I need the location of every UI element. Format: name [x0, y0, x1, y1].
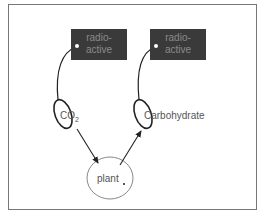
co2-text: CO: [60, 110, 75, 121]
tag-hole-icon: [154, 44, 158, 48]
tag-hole-icon: [75, 44, 79, 48]
co2-subscript: 2: [75, 116, 79, 123]
tag-text-line1: radio-: [71, 32, 127, 44]
tag-text-line2: active: [71, 44, 127, 56]
arrow-co2-to-plant: [77, 129, 98, 163]
plant-dot: [123, 183, 125, 185]
co2-label: CO2: [60, 110, 79, 123]
carbohydrate-label: Carbohydrate: [144, 110, 205, 121]
radioactive-tag-left: radio- active: [71, 29, 127, 60]
plant-label: plant: [97, 173, 119, 184]
tag-text-line2: active: [150, 44, 206, 56]
radioactive-tag-right: radio- active: [150, 29, 206, 60]
tag-text-line1: radio-: [150, 32, 206, 44]
diagram-canvas: [0, 0, 265, 213]
arrow-plant-to-carbohydrate: [120, 131, 141, 165]
